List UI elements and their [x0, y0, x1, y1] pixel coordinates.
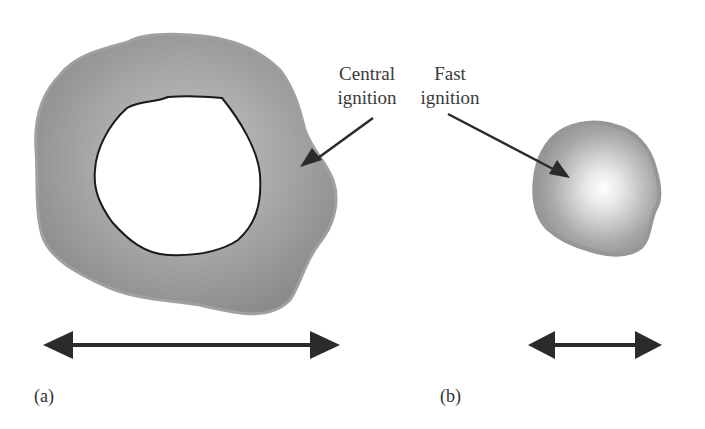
- fast-core: [534, 123, 659, 255]
- shell-hole: [95, 96, 261, 255]
- size-arrow-a: [43, 331, 340, 359]
- fast-ignition-label: Fast ignition: [410, 62, 490, 110]
- fast-ignition-target: [534, 123, 659, 255]
- central-ignition-target: [36, 34, 336, 313]
- fast-label-line1: Fast: [410, 62, 490, 86]
- central-ignition-label: Central ignition: [326, 62, 408, 110]
- central-label-line2: ignition: [326, 86, 408, 110]
- size-arrow-b: [528, 331, 662, 359]
- panel-label-a: (a): [34, 386, 54, 407]
- fast-label-line2: ignition: [410, 86, 490, 110]
- central-label-line1: Central: [326, 62, 408, 86]
- panel-label-b: (b): [440, 386, 461, 407]
